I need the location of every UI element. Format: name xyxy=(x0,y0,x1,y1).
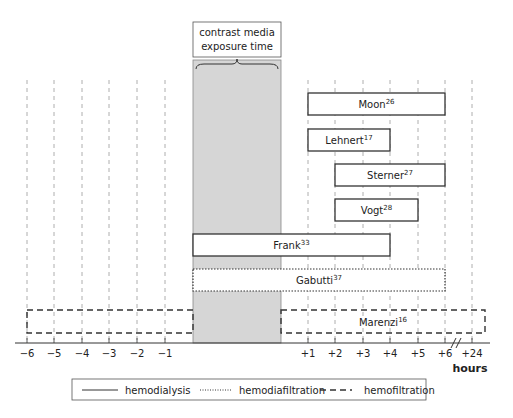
tick-label: +24 xyxy=(461,348,482,359)
tick-label: −5 xyxy=(47,348,62,359)
bar-segment-before xyxy=(27,310,193,333)
study-label: Marenzi16 xyxy=(359,316,408,328)
tick-label: +3 xyxy=(356,348,371,359)
title-line-2: exposure time xyxy=(201,41,273,52)
timeline-diagram: contrast media exposure time Moon26Lehne… xyxy=(0,0,513,418)
title-line-1: contrast media xyxy=(199,27,275,38)
tick-label: −2 xyxy=(130,348,145,359)
tick-label: −4 xyxy=(75,348,90,359)
legend-label: hemodiafiltration xyxy=(239,385,325,396)
tick-label: +6 xyxy=(438,348,453,359)
tick-label: −3 xyxy=(102,348,117,359)
tick-label: −6 xyxy=(20,348,35,359)
axis-unit-label: hours xyxy=(452,362,488,375)
legend: hemodialysishemodiafiltrationhemofiltrat… xyxy=(82,385,435,396)
study-bar-vogt: Vogt28 xyxy=(335,199,418,221)
study-bar-gabutti: Gabutti37 xyxy=(193,269,445,291)
study-bar-moon: Moon26 xyxy=(308,93,445,115)
study-bar-frank: Frank33 xyxy=(193,234,390,256)
legend-label: hemodialysis xyxy=(125,385,191,396)
tick-label: +1 xyxy=(301,348,316,359)
legend-label: hemofiltration xyxy=(364,385,435,396)
study-bar-sterner: Sterner27 xyxy=(335,164,445,186)
study-bar-lehnert: Lehnert17 xyxy=(308,129,390,151)
exposure-window xyxy=(193,60,281,343)
tick-label: −1 xyxy=(158,348,173,359)
tick-label: +4 xyxy=(383,348,398,359)
tick-label: +2 xyxy=(328,348,343,359)
tick-label: +5 xyxy=(411,348,426,359)
